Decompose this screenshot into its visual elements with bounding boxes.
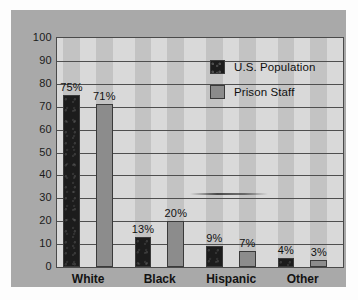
- y-axis-tick-labels: 1009080706050403020100: [19, 37, 52, 268]
- y-axis-tick-label: 100: [22, 32, 52, 43]
- legend-label-us-population: U.S. Population: [234, 61, 315, 73]
- bar-value-label: 71%: [92, 90, 117, 102]
- legend-item-us-population: U.S. Population: [210, 58, 315, 75]
- bar: [278, 258, 295, 267]
- bar: [206, 246, 223, 267]
- bar-value-label: 75%: [59, 81, 84, 93]
- bar: [96, 104, 113, 267]
- bar-value-label: 9%: [202, 232, 227, 244]
- y-axis-tick-label: 30: [22, 192, 52, 203]
- bar-value-label: 13%: [131, 223, 156, 235]
- bar-value-label: 4%: [274, 244, 299, 256]
- legend-swatch-icon-prison-staff: [210, 85, 225, 99]
- bar: [135, 237, 152, 267]
- legend-swatch-icon-us-population: [210, 60, 225, 74]
- y-axis-tick-label: 50: [22, 147, 52, 158]
- legend-item-prison-staff: Prison Staff: [210, 83, 294, 100]
- y-axis-tick-label: 80: [22, 78, 52, 89]
- bar-value-label: 3%: [306, 246, 331, 258]
- x-axis-tick-label-other: Other: [267, 272, 339, 286]
- scan-artifact-smudge: [190, 193, 268, 195]
- chart-legend: U.S. Population Prison Staff: [210, 58, 345, 100]
- y-axis-tick-label: 90: [22, 55, 52, 66]
- bar-value-label: 20%: [163, 207, 188, 219]
- x-axis-tick-label-black: Black: [124, 272, 196, 286]
- chart-figure: 75%71%13%20%9%7%4%3% 1009080706050403020…: [0, 0, 358, 300]
- chart-panel: 75%71%13%20%9%7%4%3% 1009080706050403020…: [11, 10, 346, 287]
- bar-value-label: 7%: [235, 237, 260, 249]
- y-axis-tick-label: 40: [22, 169, 52, 180]
- bar: [310, 260, 327, 267]
- y-axis-tick-label: 60: [22, 124, 52, 135]
- x-axis-category-labels: WhiteBlackHispanicOther: [56, 272, 344, 290]
- bar: [167, 221, 184, 267]
- bar: [63, 95, 80, 267]
- y-axis-tick-label: 70: [22, 101, 52, 112]
- y-axis-tick-label: 10: [22, 238, 52, 249]
- x-axis-tick-label-white: White: [52, 272, 124, 286]
- y-axis-tick-label: 0: [22, 261, 52, 272]
- bar: [239, 251, 256, 267]
- y-axis-tick-label: 20: [22, 215, 52, 226]
- legend-label-prison-staff: Prison Staff: [234, 86, 294, 98]
- x-axis-tick-label-hispanic: Hispanic: [195, 272, 267, 286]
